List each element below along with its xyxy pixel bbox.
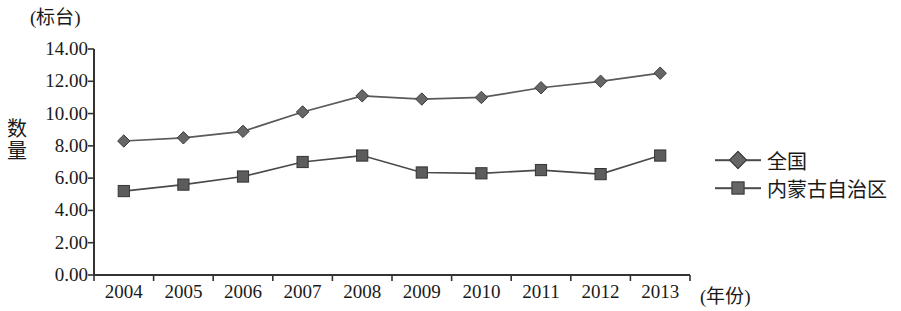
data-point-diamond [118, 135, 130, 147]
legend-marker [732, 182, 745, 195]
data-point-diamond [416, 93, 428, 105]
line-chart: (标台) 数量 0.002.004.006.008.0010.0012.0014… [0, 0, 901, 311]
data-point-square [655, 150, 666, 161]
data-point-diamond [535, 82, 547, 94]
series-1 [118, 67, 667, 147]
data-point-diamond [296, 106, 308, 118]
data-point-diamond [177, 132, 189, 144]
chart-legend: 全国内蒙古自治区 [715, 146, 887, 202]
series-line [124, 73, 660, 141]
x-tick-label: 2013 [625, 281, 695, 303]
data-point-square [535, 164, 546, 175]
legend-label: 内蒙古自治区 [767, 174, 887, 203]
data-point-square [416, 167, 427, 178]
x-axis-title: (年份) [700, 281, 751, 308]
legend-item-1[interactable]: 全国 [715, 146, 887, 174]
data-point-square [237, 171, 248, 182]
data-point-diamond [356, 90, 368, 102]
data-point-square [118, 185, 129, 196]
series-2 [118, 150, 666, 197]
legend-diamond-icon [715, 151, 761, 169]
legend-square-icon [715, 179, 761, 197]
data-point-square [476, 168, 487, 179]
data-point-diamond [594, 75, 606, 87]
legend-marker [729, 151, 747, 169]
legend-label: 全国 [767, 146, 807, 175]
data-point-square [595, 169, 606, 180]
data-point-square [357, 150, 368, 161]
x-axis-tick-labels: 2004200520062007200820092010201120122013 [0, 281, 901, 311]
data-point-diamond [475, 91, 487, 103]
legend-item-2[interactable]: 内蒙古自治区 [715, 174, 887, 202]
series-line [124, 156, 660, 192]
data-point-square [178, 179, 189, 190]
data-point-square [297, 156, 308, 167]
data-point-diamond [237, 125, 249, 137]
data-point-diamond [654, 67, 666, 79]
